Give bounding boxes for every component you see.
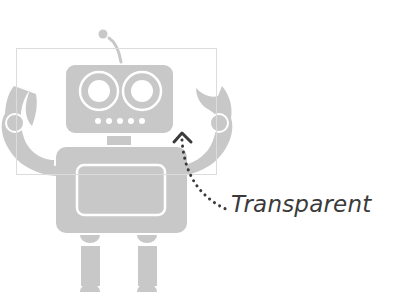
- robot-illustration: [0, 0, 406, 292]
- left-leg: [80, 235, 100, 292]
- body: [56, 147, 187, 233]
- annotation-label: Transparent: [231, 191, 371, 217]
- neck: [107, 136, 131, 145]
- left-eye: [80, 72, 118, 110]
- right-eye: [123, 72, 161, 110]
- robot: [2, 30, 233, 292]
- right-leg: [137, 235, 157, 292]
- left-arm: [2, 86, 58, 176]
- body-panel: [77, 165, 165, 215]
- robot-figure: Transparent: [0, 0, 406, 292]
- antenna: [99, 30, 122, 63]
- head: [66, 65, 173, 133]
